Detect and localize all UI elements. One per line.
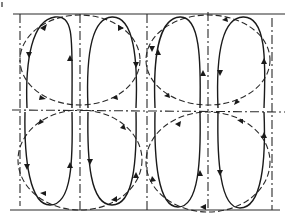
arrow-icon (24, 164, 30, 170)
arrow-icon (40, 191, 46, 196)
flow-cell-diagram (0, 0, 294, 221)
arrow-icon (155, 49, 161, 55)
loop-ur-2 (218, 17, 265, 108)
arrow-icon (217, 170, 223, 176)
arrow-icon (200, 204, 206, 210)
loop-lr-2 (218, 112, 265, 208)
arrow-icon (237, 119, 243, 124)
dashed-ellipses (18, 15, 270, 212)
arrow-icon (118, 25, 124, 31)
horizontal-axis (12, 110, 285, 112)
loop-lr-1 (155, 112, 200, 207)
arrow-icon (111, 196, 117, 202)
arrow-icon (200, 70, 206, 76)
loop-ul-2 (88, 17, 137, 108)
arrow-icon (150, 176, 156, 182)
arrow-icon (26, 52, 32, 58)
arrow-icon (234, 99, 240, 105)
loop-ll-2 (88, 112, 136, 205)
arrow-icon (175, 121, 181, 127)
loop-ll-1 (25, 112, 72, 205)
arrow-icon (87, 159, 93, 165)
loop-ul-1 (27, 17, 72, 108)
arrow-icon (120, 124, 126, 130)
arrow-icon (261, 132, 267, 138)
arrow-icon (67, 162, 73, 168)
arrow-icon (261, 58, 267, 64)
vertical-axes (20, 12, 272, 210)
arrow-icon (133, 62, 139, 68)
arrow-icon (149, 46, 155, 52)
arrow-icon (222, 17, 228, 22)
arrow-icon (112, 95, 118, 100)
flow-arrows (24, 17, 267, 210)
